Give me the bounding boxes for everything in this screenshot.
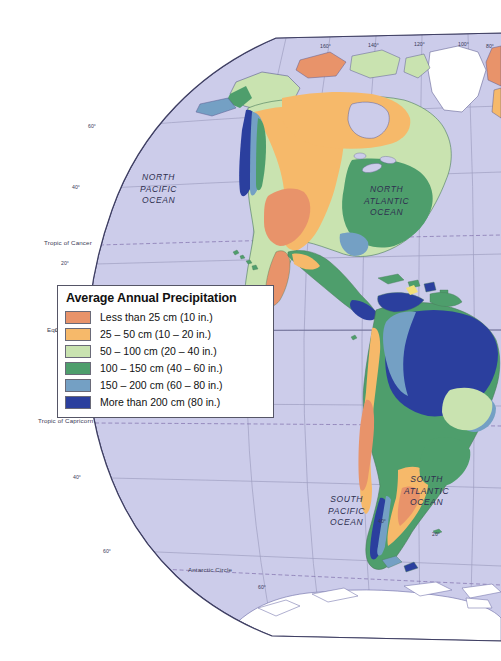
legend-swatch-50-100cm bbox=[65, 345, 91, 358]
legend-row: 100 – 150 cm (40 – 60 in.) bbox=[65, 360, 266, 377]
legend-label: 150 – 200 cm (60 – 80 in.) bbox=[100, 379, 223, 392]
legend-label: 25 – 50 cm (10 – 20 in.) bbox=[100, 328, 211, 341]
legend-swatch-less-than-25cm bbox=[65, 311, 91, 324]
legend-label: More than 200 cm (80 in.) bbox=[100, 396, 220, 409]
legend-title: Average Annual Precipitation bbox=[66, 291, 266, 305]
legend-label: 50 – 100 cm (20 – 40 in.) bbox=[100, 345, 217, 358]
map-legend: Average Annual Precipitation Less than 2… bbox=[57, 285, 274, 418]
legend-row: 25 – 50 cm (10 – 20 in.) bbox=[65, 326, 266, 343]
legend-label: Less than 25 cm (10 in.) bbox=[100, 311, 213, 324]
legend-swatch-100-150cm bbox=[65, 362, 91, 375]
legend-row: 50 – 100 cm (20 – 40 in.) bbox=[65, 343, 266, 360]
legend-label: 100 – 150 cm (40 – 60 in.) bbox=[100, 362, 223, 375]
legend-row: 150 – 200 cm (60 – 80 in.) bbox=[65, 377, 266, 394]
legend-row: Less than 25 cm (10 in.) bbox=[65, 309, 266, 326]
legend-swatch-150-200cm bbox=[65, 379, 91, 392]
legend-row: More than 200 cm (80 in.) bbox=[65, 394, 266, 411]
legend-swatch-25-50cm bbox=[65, 328, 91, 341]
precipitation-map: NORTH PACIFIC OCEAN NORTH ATLANTIC OCEAN… bbox=[0, 0, 501, 661]
legend-swatch-more-than-200cm bbox=[65, 396, 91, 409]
